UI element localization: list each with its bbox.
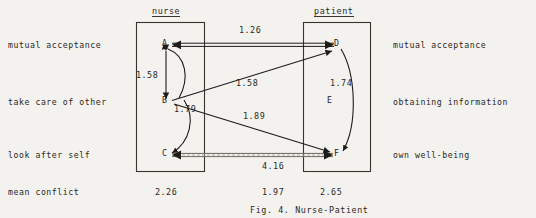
group-box-nurse: [137, 23, 205, 172]
left-label-mutual-acceptance: mutual acceptance: [8, 40, 101, 50]
figure-nurse-patient: nurse patient mutual acceptance take car…: [0, 0, 536, 218]
edge-C-F: [172, 151, 333, 160]
group-title-nurse: nurse: [152, 6, 180, 17]
edge-B-D: [172, 51, 332, 101]
right-label-obtaining-information: obtaining information: [393, 97, 508, 107]
edge-value-A-D: 1.26: [239, 25, 261, 35]
group-title-patient: patient: [314, 6, 354, 17]
edge-A-D: [172, 40, 334, 49]
mean-conflict-nurse: 2.26: [155, 187, 177, 197]
edge-value-C-F: 4.16: [262, 161, 284, 171]
left-label-look-after-self: look after self: [8, 150, 90, 160]
node-label-F: F: [334, 148, 339, 158]
diagram-canvas: [0, 0, 536, 218]
figure-caption: Fig. 4. Nurse-Patient: [250, 205, 369, 215]
edge-value-B-C: 1.79: [174, 104, 196, 114]
edge-value-D-F: 1.74: [330, 78, 352, 88]
left-label-take-care-of-other: take care of other: [8, 97, 107, 107]
node-label-E: E: [327, 95, 332, 105]
edge-B-A-curve: [168, 49, 185, 98]
left-label-mean-conflict: mean conflict: [8, 187, 79, 197]
node-label-B: B: [162, 95, 167, 105]
edge-value-B-F: 1.89: [243, 111, 265, 121]
edge-D-F: [341, 49, 353, 151]
mean-conflict-patient: 2.65: [320, 187, 342, 197]
node-label-A: A: [162, 38, 167, 48]
edge-value-B-D: 1.58: [236, 78, 258, 88]
edge-value-A-B: 1.58: [136, 70, 158, 80]
right-label-mutual-acceptance: mutual acceptance: [393, 40, 486, 50]
node-label-D: D: [334, 38, 339, 48]
mean-conflict-between: 1.97: [262, 187, 284, 197]
node-label-C: C: [162, 148, 167, 158]
right-label-own-well-being: own well-being: [393, 150, 470, 160]
